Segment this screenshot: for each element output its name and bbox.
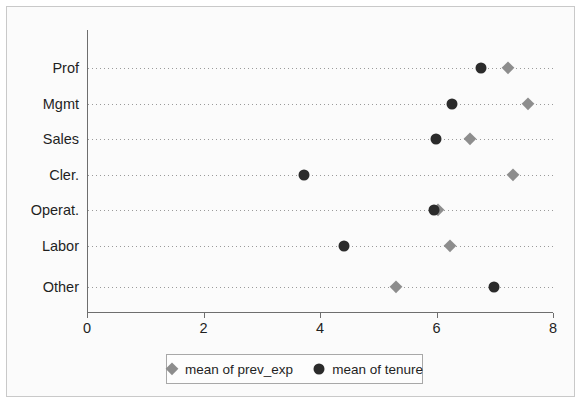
- datapoint-circle-sales: [430, 134, 441, 145]
- circle-icon: [313, 363, 325, 375]
- datapoint-circle-operat-: [428, 205, 439, 216]
- y-axis-label-mgmt: Mgmt: [0, 96, 79, 112]
- datapoint-circle-cler-: [298, 170, 309, 181]
- x-tick-label-4: 4: [316, 320, 324, 336]
- gridline-other: [88, 287, 554, 288]
- datapoint-circle-prof: [475, 63, 486, 74]
- y-axis-label-cler-: Cler.: [0, 167, 79, 183]
- y-axis-label-other: Other: [0, 279, 79, 295]
- datapoint-circle-other: [489, 282, 500, 293]
- y-axis-label-sales: Sales: [0, 131, 79, 147]
- chart-screenshot: ProfMgmtSalesCler.Operat.LaborOther 0246…: [0, 0, 582, 404]
- y-axis-line: [87, 30, 88, 312]
- y-axis-label-prof: Prof: [0, 60, 79, 76]
- x-tick-0: [87, 313, 88, 318]
- gridline-mgmt: [88, 104, 554, 105]
- datapoint-circle-mgmt: [447, 99, 458, 110]
- x-tick-4: [320, 313, 321, 318]
- datapoint-circle-labor: [338, 241, 349, 252]
- x-tick-label-8: 8: [549, 320, 557, 336]
- x-tick-8: [553, 313, 554, 318]
- x-tick-label-6: 6: [432, 320, 440, 336]
- chart-legend: mean of prev_exp mean of tenure: [166, 354, 423, 384]
- legend-item-tenure: mean of tenure: [313, 362, 423, 377]
- y-axis-label-operat-: Operat.: [0, 202, 79, 218]
- legend-label-tenure: mean of tenure: [332, 362, 423, 377]
- legend-item-prev-exp: mean of prev_exp: [166, 362, 293, 377]
- diamond-icon: [166, 363, 178, 375]
- gridline-operat-: [88, 210, 554, 211]
- legend-label-prev-exp: mean of prev_exp: [185, 362, 293, 377]
- graph-region: [6, 6, 575, 397]
- x-tick-label-2: 2: [199, 320, 207, 336]
- gridline-sales: [88, 139, 554, 140]
- x-tick-2: [204, 313, 205, 318]
- gridline-labor: [88, 246, 554, 247]
- y-axis-label-labor: Labor: [0, 238, 79, 254]
- x-tick-label-0: 0: [83, 320, 91, 336]
- x-tick-6: [437, 313, 438, 318]
- gridline-cler-: [88, 175, 554, 176]
